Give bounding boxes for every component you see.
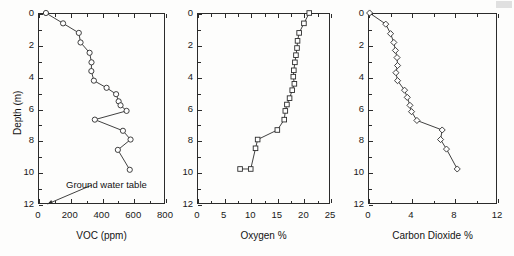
y-tick (198, 78, 202, 79)
y-tick (198, 141, 202, 142)
y-tick-minor (198, 157, 201, 158)
y-tick (369, 205, 373, 206)
x-tick-top-minor (391, 14, 392, 17)
y-tick-label: 10 (13, 167, 34, 177)
x-tick-top (455, 14, 456, 18)
x-tick-top-minor (55, 14, 56, 17)
figure-container: Depth (m) VOC (ppm) Ground water table 0… (0, 0, 514, 256)
x-tick-top (412, 14, 413, 18)
y-tick (369, 46, 373, 47)
y-tick-minor (198, 125, 201, 126)
x-tick-label: 20 (298, 210, 309, 220)
x-tick-top (134, 14, 135, 18)
y-tick (39, 110, 43, 111)
x-tick (71, 199, 72, 203)
y-tick-minor (369, 30, 372, 31)
y-tick-label: 0 (172, 8, 193, 18)
x-tick (103, 199, 104, 203)
y-tick-minor (369, 125, 372, 126)
x-tick-minor (391, 201, 392, 204)
x-tick (369, 199, 370, 203)
plot-frame-voc (38, 13, 165, 204)
x-tick-top-minor (211, 14, 212, 17)
x-tick-top-minor (291, 14, 292, 17)
plot-frame-oxygen (197, 13, 330, 204)
x-axis-title-voc: VOC (ppm) (76, 230, 127, 241)
x-tick-label: 600 (125, 210, 141, 220)
x-tick-minor (55, 201, 56, 204)
y-tick (369, 78, 373, 79)
y-tick (198, 110, 202, 111)
x-tick-top (369, 14, 370, 18)
x-tick (166, 199, 167, 203)
x-tick-top-minor (87, 14, 88, 17)
x-tick-top (278, 14, 279, 18)
x-tick-top (225, 14, 226, 18)
x-tick-label: 400 (94, 210, 110, 220)
x-tick-top (103, 14, 104, 18)
x-tick (134, 199, 135, 203)
y-tick-minor (198, 30, 201, 31)
x-tick-minor (477, 201, 478, 204)
scan-artifact (496, 1, 512, 8)
y-tick (39, 141, 43, 142)
y-tick (369, 173, 373, 174)
x-tick-top-minor (434, 14, 435, 17)
y-tick-label: 6 (13, 104, 34, 114)
y-tick-label: 2 (13, 40, 34, 50)
y-tick-label: 10 (172, 167, 193, 177)
x-tick-label: 25 (325, 210, 336, 220)
x-tick-top-minor (238, 14, 239, 17)
x-tick-top-minor (265, 14, 266, 17)
x-tick-top-minor (477, 14, 478, 17)
y-tick-minor (369, 94, 372, 95)
y-tick-label: 0 (343, 8, 364, 18)
y-tick (198, 173, 202, 174)
x-tick (498, 199, 499, 203)
y-tick-label: 8 (13, 136, 34, 146)
x-tick-top (166, 14, 167, 18)
y-tick (369, 141, 373, 142)
x-tick-label: 12 (492, 210, 503, 220)
x-tick-minor (87, 201, 88, 204)
y-tick-minor (198, 189, 201, 190)
x-tick-top (304, 14, 305, 18)
y-tick-label: 8 (343, 136, 364, 146)
x-tick-minor (291, 201, 292, 204)
y-tick (39, 173, 43, 174)
ground-water-table-annotation: Ground water table (66, 179, 147, 190)
y-tick-label: 6 (343, 104, 364, 114)
x-tick (251, 199, 252, 203)
y-tick (369, 110, 373, 111)
y-tick-minor (39, 62, 42, 63)
x-tick-top (71, 14, 72, 18)
y-tick-minor (369, 157, 372, 158)
x-tick-minor (211, 201, 212, 204)
x-tick-top (39, 14, 40, 18)
y-tick (39, 78, 43, 79)
x-tick (412, 199, 413, 203)
y-tick (198, 46, 202, 47)
y-tick-label: 2 (172, 40, 193, 50)
x-tick (225, 199, 226, 203)
x-tick-label: 200 (62, 210, 78, 220)
x-tick-minor (265, 201, 266, 204)
y-tick-label: 4 (343, 72, 364, 82)
y-tick-minor (39, 157, 42, 158)
x-tick-label: 5 (221, 210, 226, 220)
x-tick-label: 10 (245, 210, 256, 220)
y-tick-minor (369, 62, 372, 63)
x-tick-top-minor (118, 14, 119, 17)
y-tick (198, 205, 202, 206)
x-tick-minor (434, 201, 435, 204)
y-tick-label: 8 (172, 136, 193, 146)
x-tick-label: 0 (365, 210, 370, 220)
x-tick-minor (150, 201, 151, 204)
x-tick-minor (318, 201, 319, 204)
y-tick-label: 10 (343, 167, 364, 177)
y-tick-label: 12 (172, 199, 193, 209)
x-tick-label: 800 (157, 210, 173, 220)
y-tick-minor (39, 189, 42, 190)
x-tick (331, 199, 332, 203)
x-tick (39, 199, 40, 203)
